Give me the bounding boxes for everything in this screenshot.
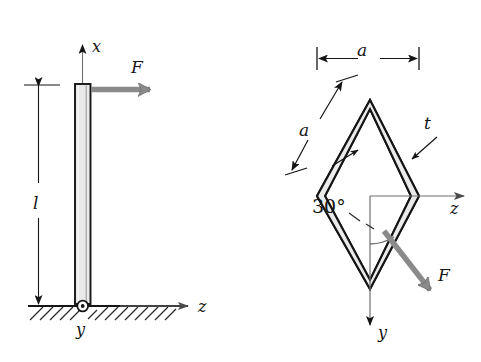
- force-label-left: F: [130, 57, 144, 77]
- length-label: l: [33, 193, 38, 213]
- side-arrow-upper: [320, 82, 342, 119]
- ground-hatching: [30, 307, 176, 320]
- width-dimension: a: [317, 40, 419, 70]
- side-extension-upper: [336, 75, 358, 82]
- length-dimension: l: [24, 85, 60, 304]
- side-label: a: [299, 120, 309, 140]
- thickness-arrow-outer: [412, 137, 437, 159]
- force-arrow-shaft-diagonal: [384, 231, 430, 290]
- x-axis: x: [83, 37, 102, 84]
- angle-label: 30°: [312, 195, 346, 217]
- origin-dot: [81, 304, 85, 308]
- side-extension-lower: [285, 168, 307, 175]
- y-axis-label-left: y: [75, 320, 86, 339]
- cross-section-panel: a a t z y 30°: [285, 40, 464, 342]
- force-arrow-horizontal: F: [91, 57, 150, 90]
- force-arrow-diagonal: F: [384, 231, 451, 290]
- side-arrow-lower: [292, 140, 308, 170]
- z-axis-label-right: z: [449, 199, 459, 218]
- engineering-figure: x: [0, 0, 481, 362]
- beam-outline: [75, 84, 91, 304]
- side-elevation-panel: x: [24, 37, 207, 339]
- width-label: a: [357, 40, 367, 60]
- vertical-cantilever-beam: [75, 84, 91, 304]
- z-axis-left: z: [120, 297, 207, 316]
- z-axis-label-left: z: [197, 297, 207, 316]
- y-axis-label-right: y: [377, 323, 388, 342]
- figure-canvas: x: [0, 0, 481, 362]
- force-label-right: F: [437, 265, 451, 285]
- x-axis-label: x: [92, 37, 101, 56]
- thickness-label: t: [424, 113, 431, 133]
